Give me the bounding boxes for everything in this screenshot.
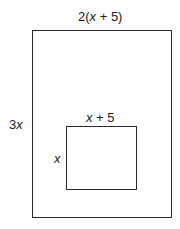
inner-rectangle <box>66 126 137 190</box>
outer-height-label: 3x <box>9 118 23 132</box>
inner-width-label: x + 5 <box>86 111 115 125</box>
inner-height-label: x <box>54 152 61 166</box>
outer-width-label: 2(x + 5) <box>78 10 122 24</box>
